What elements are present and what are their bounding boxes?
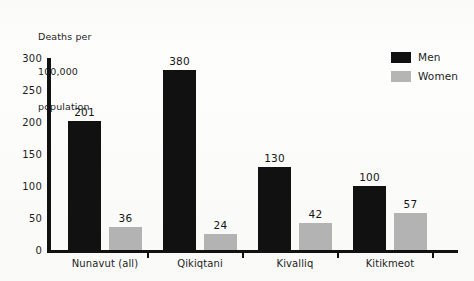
bar-value-label: 100	[359, 171, 380, 183]
legend-swatch-women	[391, 71, 411, 82]
bar-value-label: 24	[214, 219, 228, 231]
y-tick-label-100: 100	[22, 180, 42, 191]
bar-men-qikiqtani	[163, 70, 196, 249]
y-tick-label-250: 250	[22, 84, 42, 95]
y-tick-label-0: 0	[35, 244, 42, 255]
x-axis-tick	[337, 250, 339, 258]
x-axis-tick	[242, 250, 244, 258]
bar-value-label: 36	[119, 212, 133, 224]
bar-women-qikiqtani	[204, 234, 237, 249]
bar-value-label: 201	[74, 106, 95, 118]
bar-men-nunavutall	[68, 121, 101, 249]
category-label-qikiqtani: Qikiqtani	[177, 258, 223, 269]
bar-value-label: 42	[309, 208, 323, 220]
legend-item-women: Women	[391, 68, 458, 84]
legend-swatch-men	[391, 52, 411, 63]
legend-label: Women	[418, 70, 458, 82]
bar-women-nunavutall	[109, 227, 142, 250]
category-label-kivalliq: Kivalliq	[277, 258, 314, 269]
bar-women-kitikmeot	[394, 213, 427, 249]
category-label-nunavutall: Nunavut (all)	[72, 258, 138, 269]
x-axis-tick	[147, 250, 149, 258]
category-label-kitikmeot: Kitikmeot	[366, 258, 415, 269]
legend: MenWomen	[391, 49, 458, 87]
y-tick-label-150: 150	[22, 148, 42, 159]
bar-value-label: 57	[404, 198, 418, 210]
bar-men-kitikmeot	[353, 186, 386, 250]
bar-chart: Deaths per 100,000 population 0501001502…	[0, 0, 474, 281]
y-tick-label-300: 300	[22, 53, 42, 64]
bar-men-kivalliq	[258, 167, 291, 250]
bar-women-kivalliq	[299, 223, 332, 250]
y-tick-label-200: 200	[22, 116, 42, 127]
legend-item-men: Men	[391, 49, 458, 65]
bar-value-label: 380	[169, 55, 190, 67]
x-axis-tick	[432, 250, 434, 258]
y-axis-tick-labels: 050100150200250300	[0, 0, 42, 281]
y-axis-title-line-1: Deaths per	[38, 31, 91, 43]
bar-value-label: 130	[264, 152, 285, 164]
y-tick-label-50: 50	[29, 212, 42, 223]
legend-label: Men	[418, 51, 440, 63]
